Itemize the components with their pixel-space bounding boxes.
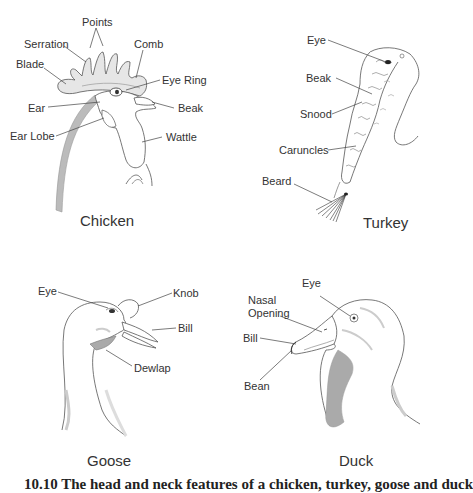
label-bill: Bill [243, 332, 258, 344]
label-eye: Eye [302, 277, 321, 289]
label-knob: Knob [173, 287, 199, 299]
label-eye: Eye [38, 285, 57, 297]
label-dewlap: Dewlap [134, 362, 171, 374]
label-bill: Bill [178, 322, 193, 334]
label-beak: Beak [178, 102, 203, 114]
goose-title: Goose [87, 452, 131, 469]
label-bean: Bean [244, 380, 270, 392]
duck-illustration [220, 240, 445, 476]
label-nasal-opening-line1: Nasal [248, 294, 276, 306]
label-wattle: Wattle [166, 131, 197, 143]
label-eye: Eye [307, 34, 326, 46]
turkey-title: Turkey [363, 214, 408, 231]
label-ear: Ear [28, 102, 45, 114]
label-blade: Blade [16, 58, 44, 70]
chicken-illustration [0, 0, 220, 240]
figure-caption: 10.10 The head and neck features of a ch… [24, 476, 473, 493]
label-ear-lobe: Ear Lobe [10, 130, 55, 142]
duck-title: Duck [339, 452, 373, 469]
label-snood: Snood [300, 108, 332, 120]
goose-illustration [0, 240, 220, 476]
chicken-title: Chicken [80, 212, 134, 229]
goose-panel: Eye Knob Bill Dewlap Goose [0, 240, 220, 476]
duck-panel: Eye Nasal Opening Bill Bean Duck [220, 240, 445, 476]
label-serration: Serration [24, 38, 69, 50]
turkey-panel: Eye Beak Snood Caruncles Beard Turkey [220, 0, 445, 240]
label-beak: Beak [306, 72, 331, 84]
label-comb: Comb [134, 38, 163, 50]
label-caruncles: Caruncles [279, 144, 329, 156]
label-eye-ring: Eye Ring [162, 74, 207, 86]
turkey-illustration [220, 0, 445, 240]
chicken-panel: Points Serration Comb Blade Eye Ring Ear… [0, 0, 220, 240]
label-nasal-opening-line2: Opening [248, 307, 290, 319]
label-points: Points [82, 16, 113, 28]
label-beard: Beard [262, 175, 291, 187]
